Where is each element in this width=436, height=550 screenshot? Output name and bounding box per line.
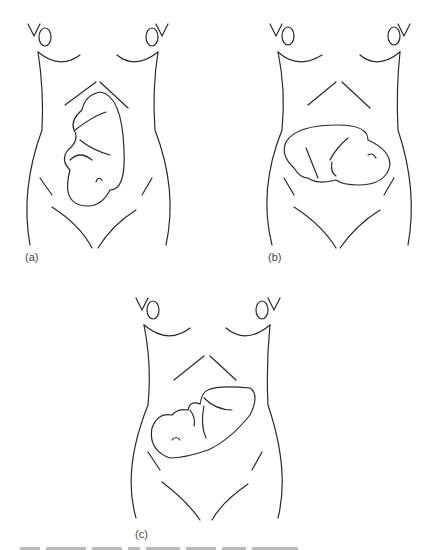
panel-a: (a): [0, 0, 218, 270]
panel-c: (c): [100, 280, 340, 540]
panel-label-b: (b): [268, 251, 281, 263]
panel-label-a: (a): [25, 251, 38, 263]
panel-b: (b): [218, 0, 436, 270]
breast-left-icon: [39, 28, 51, 46]
torso-drawing-longitudinal: [0, 0, 218, 270]
torso-drawing-transverse: [218, 0, 436, 270]
figure-caption-truncated: [20, 545, 380, 550]
torso-drawing-oblique: [100, 280, 340, 540]
panel-label-c: (c): [135, 528, 148, 540]
